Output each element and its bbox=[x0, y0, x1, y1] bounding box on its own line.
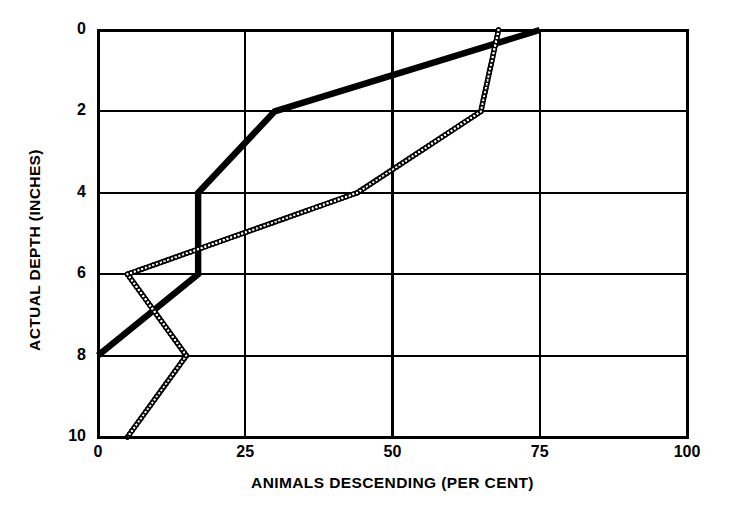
y-tick-label: 6 bbox=[34, 264, 86, 282]
chart-figure: ACTUAL DEPTH (INCHES) ANIMALS DESCENDING… bbox=[0, 0, 739, 523]
gridlines bbox=[98, 30, 687, 437]
y-axis-title: ACTUAL DEPTH (INCHES) bbox=[18, 30, 52, 470]
x-axis-title: ANIMALS DESCENDING (PER CENT) bbox=[98, 474, 687, 492]
y-tick-label: 10 bbox=[34, 427, 86, 445]
y-tick-label: 0 bbox=[34, 20, 86, 38]
y-tick-label: 8 bbox=[34, 346, 86, 364]
x-tick-label: 25 bbox=[215, 443, 275, 461]
x-tick-label: 50 bbox=[363, 443, 423, 461]
x-tick-label: 0 bbox=[68, 443, 128, 461]
x-tick-label: 100 bbox=[657, 443, 717, 461]
y-tick-label: 4 bbox=[34, 183, 86, 201]
data-series-layer bbox=[98, 28, 540, 439]
x-tick-label: 75 bbox=[510, 443, 570, 461]
y-tick-label: 2 bbox=[34, 101, 86, 119]
